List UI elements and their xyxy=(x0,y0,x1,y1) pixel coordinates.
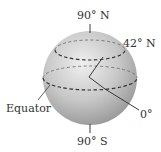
globe-latitude-diagram: 90° N 42° N Equator 0° 90° S xyxy=(0,0,161,152)
globe-graphic xyxy=(0,0,161,152)
north-pole-label: 90° N xyxy=(77,10,110,21)
latitude-42n-label: 42° N xyxy=(123,38,156,49)
south-pole-label: 90° S xyxy=(77,136,108,147)
equator-label: Equator xyxy=(6,103,51,114)
prime-meridian-label: 0° xyxy=(140,109,153,120)
